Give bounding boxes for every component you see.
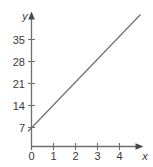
y-axis-label: y xyxy=(21,10,29,22)
x-tick-label-2: 2 xyxy=(72,150,78,162)
data-series-line xyxy=(28,15,141,132)
y-tick-label-21: 21 xyxy=(13,78,25,90)
x-tick-label-3: 3 xyxy=(94,150,100,162)
y-tick-label-7: 7 xyxy=(19,122,25,134)
x-tick-label-0: 0 xyxy=(28,150,34,162)
y-tick-label-35: 35 xyxy=(13,34,25,46)
x-axis-label: x xyxy=(141,150,148,162)
chart-canvas: 7 14 21 28 35 0 1 2 3 4 y x xyxy=(0,0,153,167)
x-tick-label-1: 1 xyxy=(50,150,56,162)
y-tick-label-14: 14 xyxy=(13,100,25,112)
x-axis-arrowhead xyxy=(136,143,144,150)
y-axis-arrowhead xyxy=(28,12,35,20)
line-graph: 7 14 21 28 35 0 1 2 3 4 y x xyxy=(0,0,153,167)
x-tick-label-4: 4 xyxy=(116,150,122,162)
y-tick-label-28: 28 xyxy=(13,56,25,68)
